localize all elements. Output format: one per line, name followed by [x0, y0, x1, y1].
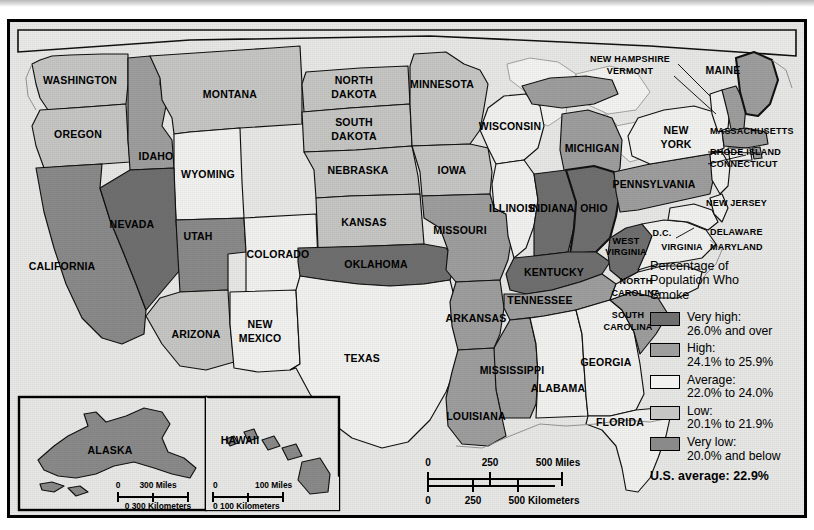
- legend-item-very-high: Very high: 26.0% and over: [650, 311, 796, 338]
- label-oregon: OREGON: [54, 128, 102, 140]
- inset-hawaii: HAWAII 0 100 Miles 0 100 Kilometers: [206, 397, 339, 511]
- label-new-mexico-line2: MEXICO: [239, 332, 282, 344]
- scale-main-miles-0: 0: [425, 457, 431, 468]
- legend-swatch-very-low: [650, 437, 680, 451]
- label-maine: MAINE: [706, 64, 741, 76]
- label-minnesota: MINNESOTA: [410, 78, 474, 90]
- legend-title-line2: Population Who: [650, 273, 796, 287]
- label-oklahoma: OKLAHOMA: [344, 258, 408, 270]
- hawaii-scale-km: 0 100 Kilometers: [213, 501, 280, 511]
- label-alaska: ALASKA: [88, 444, 133, 456]
- label-ohio: OHIO: [580, 202, 608, 214]
- map-page: WASHINGTON OREGON CALIFORNIA IDAHO MONTA…: [0, 0, 814, 530]
- label-louisiana: LOUISIANA: [446, 410, 506, 422]
- legend-range-very-high: 26.0% and over: [687, 325, 772, 339]
- legend-label-very-high: Very high:: [687, 311, 772, 325]
- label-pennsylvania: PENNSYLVANIA: [612, 178, 695, 190]
- legend-title: Percentage of Population Who Smoke: [650, 259, 796, 302]
- legend-title-line3: Smoke: [650, 288, 796, 302]
- scale-main-km-500: 500 Kilometers: [508, 495, 580, 506]
- top-edge-strip: [0, 0, 814, 7]
- label-connecticut: CONNECTICUT: [710, 159, 778, 169]
- alaska-scale-miles-300: 300 Miles: [139, 480, 177, 490]
- label-west-virginia-line1: WEST: [613, 236, 640, 246]
- legend-item-very-low: Very low: 20.0% and below: [650, 436, 796, 463]
- label-maryland: MARYLAND: [710, 242, 763, 252]
- scale-main-miles-500: 500 Miles: [536, 457, 581, 468]
- label-kentucky: KENTUCKY: [524, 266, 584, 278]
- label-arizona: ARIZONA: [171, 328, 220, 340]
- label-south-carolina-line2: CAROLINA: [603, 322, 652, 332]
- scale-main-miles-250: 250: [482, 457, 499, 468]
- label-arkansas: ARKANSAS: [445, 312, 506, 324]
- label-utah: UTAH: [183, 230, 212, 242]
- label-mississippi: MISSISSIPPI: [480, 364, 545, 376]
- label-new-jersey: NEW JERSEY: [706, 198, 767, 208]
- legend-swatch-very-high: [650, 312, 680, 326]
- legend-range-very-low: 20.0% and below: [687, 450, 781, 464]
- legend-item-low: Low: 20.1% to 21.9%: [650, 405, 796, 432]
- label-dc: D.C.: [653, 228, 672, 238]
- scale-main-km-0: 0: [425, 495, 431, 506]
- legend-label-average: Average:: [687, 374, 773, 388]
- label-alabama: ALABAMA: [531, 382, 586, 394]
- label-wisconsin: WISCONSIN: [479, 120, 541, 132]
- label-illinois: ILLINOIS: [489, 202, 535, 214]
- label-iowa: IOWA: [438, 164, 467, 176]
- hawaii-scale-miles-100: 100 Miles: [255, 480, 293, 490]
- label-kansas: KANSAS: [341, 216, 387, 228]
- label-hawaii: HAWAII: [221, 434, 260, 446]
- label-south-carolina-line1: SOUTH: [612, 310, 645, 320]
- label-idaho: IDAHO: [139, 150, 174, 162]
- label-new-mexico-line1: NEW: [247, 318, 272, 330]
- legend-label-very-low: Very low:: [687, 436, 781, 450]
- alaska-scale-miles-0: 0: [116, 480, 121, 490]
- label-tennessee: TENNESSEE: [507, 294, 572, 306]
- legend-title-line1: Percentage of: [650, 259, 796, 273]
- label-new-york-line1: NEW: [663, 124, 688, 136]
- label-south-dakota-line1: SOUTH: [335, 116, 373, 128]
- scale-main-km-250: 250: [465, 495, 482, 506]
- label-georgia: GEORGIA: [581, 356, 632, 368]
- legend-range-low: 20.1% to 21.9%: [687, 418, 773, 432]
- label-florida: FLORIDA: [596, 416, 644, 428]
- label-missouri: MISSOURI: [433, 224, 487, 236]
- label-west-virginia-line2: VIRGINIA: [605, 247, 647, 257]
- label-michigan: MICHIGAN: [565, 142, 620, 154]
- label-north-carolina-line1: NORTH: [620, 276, 653, 286]
- label-north-dakota-line2: DAKOTA: [331, 88, 377, 100]
- legend-item-average: Average: 22.0% to 24.0%: [650, 374, 796, 401]
- legend-swatch-average: [650, 375, 680, 389]
- legend-label-low: Low:: [687, 405, 773, 419]
- label-virginia: VIRGINIA: [661, 242, 703, 252]
- label-delaware: DELAWARE: [710, 227, 763, 237]
- legend-swatch-low: [650, 406, 680, 420]
- alaska-scale-km: 0 300 Kilometers: [125, 501, 192, 511]
- legend-swatch-high: [650, 343, 680, 357]
- legend-label-high: High:: [687, 342, 773, 356]
- label-wyoming: WYOMING: [181, 168, 235, 180]
- label-new-hampshire: NEW HAMPSHIRE: [590, 54, 670, 64]
- label-south-dakota-line2: DAKOTA: [331, 130, 377, 142]
- state-south-dakota: [302, 104, 412, 152]
- label-new-york-line2: YORK: [660, 138, 691, 150]
- legend-item-high: High: 24.1% to 25.9%: [650, 342, 796, 369]
- label-massachusetts: MASSACHUSETTS: [710, 126, 794, 136]
- legend-range-high: 24.1% to 25.9%: [687, 356, 773, 370]
- label-nevada: NEVADA: [110, 218, 155, 230]
- label-nebraska: NEBRASKA: [327, 164, 388, 176]
- label-colorado: COLORADO: [247, 248, 310, 260]
- legend-range-average: 22.0% to 24.0%: [687, 387, 773, 401]
- label-california: CALIFORNIA: [29, 260, 96, 272]
- label-texas: TEXAS: [344, 352, 380, 364]
- label-indiana: INDIANA: [529, 202, 574, 214]
- map-frame: WASHINGTON OREGON CALIFORNIA IDAHO MONTA…: [7, 19, 807, 518]
- map-legend: Percentage of Population Who Smoke Very …: [650, 259, 796, 483]
- label-montana: MONTANA: [203, 88, 257, 100]
- hawaii-scale-miles-0: 0: [213, 480, 218, 490]
- label-north-dakota-line1: NORTH: [335, 74, 373, 86]
- label-washington: WASHINGTON: [43, 74, 117, 86]
- us-average-note: U.S. average: 22.9%: [650, 469, 796, 483]
- label-vermont: VERMONT: [607, 66, 654, 76]
- inset-alaska: ALASKA 0 300 Miles 0 300 Kilometers: [19, 397, 206, 511]
